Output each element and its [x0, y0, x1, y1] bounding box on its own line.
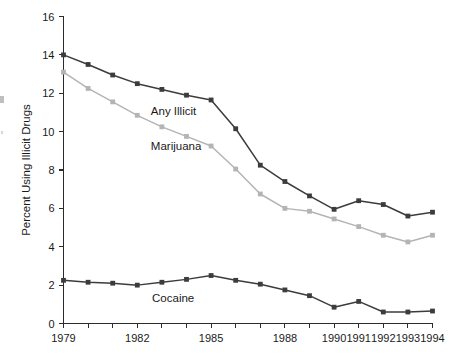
data-point-marker [135, 81, 140, 86]
data-point-marker [356, 198, 361, 203]
data-point-marker [209, 144, 214, 149]
x-tick-label: 1982 [125, 332, 149, 344]
data-point-marker [283, 179, 288, 184]
y-tick-label: 2 [48, 279, 54, 291]
data-point-marker [430, 233, 435, 238]
line-chart: 0246810121416 19791982198519881990199119… [0, 0, 454, 356]
data-point-marker [184, 93, 189, 98]
data-point-marker [61, 52, 66, 57]
scan-artifact-left [0, 96, 4, 103]
y-tick-label: 16 [42, 11, 54, 23]
series-label-any-illicit: Any Illicit [151, 105, 197, 117]
data-point-marker [283, 288, 288, 293]
data-point-marker [184, 277, 189, 282]
data-point-marker [332, 305, 337, 310]
data-point-marker [209, 273, 214, 278]
data-point-marker [356, 299, 361, 304]
data-point-marker [61, 278, 66, 283]
data-point-marker [258, 282, 263, 287]
y-tick-label: 10 [42, 126, 54, 138]
data-point-marker [332, 217, 337, 222]
data-point-marker [381, 310, 386, 315]
series-label-marijuana: Marijuana [151, 140, 202, 152]
data-point-marker [209, 98, 214, 103]
data-point-marker [61, 70, 66, 75]
data-point-marker [283, 206, 288, 211]
data-point-marker [110, 73, 115, 78]
data-point-marker [258, 163, 263, 168]
y-tick-label: 8 [48, 164, 54, 176]
data-point-marker [233, 278, 238, 283]
data-point-marker [233, 126, 238, 131]
data-point-marker [233, 167, 238, 172]
x-tick-label: 1992 [371, 332, 395, 344]
x-tick-label: 1994 [420, 332, 444, 344]
data-point-marker [135, 113, 140, 118]
scan-artifact-left-lower [1, 131, 3, 134]
data-point-marker [86, 280, 91, 285]
data-point-marker [135, 283, 140, 288]
y-tick-label: 14 [42, 49, 54, 61]
y-axis-title: Percent Using Illicit Drugs [20, 104, 32, 236]
x-tick-label: 1985 [199, 332, 223, 344]
x-tick-label: 1990 [322, 332, 346, 344]
data-point-marker [86, 62, 91, 67]
data-point-marker [406, 240, 411, 245]
x-tick-label: 1993 [396, 332, 420, 344]
y-tick-label: 4 [48, 241, 54, 253]
x-tick-label: 1979 [51, 332, 75, 344]
data-point-marker [381, 233, 386, 238]
data-point-marker [406, 310, 411, 315]
data-point-marker [406, 214, 411, 219]
y-tick-label: 0 [48, 318, 54, 330]
data-point-marker [258, 192, 263, 197]
data-point-marker [381, 202, 386, 207]
series-label-cocaine: Cocaine [152, 292, 194, 304]
data-point-marker [160, 87, 165, 92]
data-point-marker [307, 194, 312, 199]
data-point-marker [332, 207, 337, 212]
data-point-marker [86, 86, 91, 91]
data-point-marker [160, 124, 165, 129]
data-point-marker [356, 224, 361, 229]
data-point-marker [160, 280, 165, 285]
data-point-marker [307, 209, 312, 214]
data-point-marker [430, 309, 435, 314]
y-tick-label: 12 [42, 87, 54, 99]
chart-background [0, 0, 454, 356]
y-tick-label: 6 [48, 202, 54, 214]
data-point-marker [430, 210, 435, 215]
data-point-marker [110, 99, 115, 104]
data-point-marker [307, 293, 312, 298]
x-tick-label: 1988 [273, 332, 297, 344]
chart-container: 0246810121416 19791982198519881990199119… [0, 0, 454, 356]
x-tick-label: 1991 [346, 332, 370, 344]
data-point-marker [184, 134, 189, 139]
data-point-marker [110, 281, 115, 286]
